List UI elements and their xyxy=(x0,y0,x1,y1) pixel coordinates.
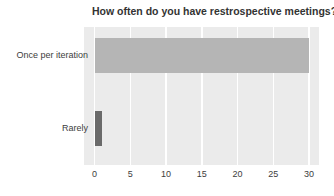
bar-once-per-iteration xyxy=(95,38,310,73)
x-axis-tick-label-15: 15 xyxy=(187,169,217,179)
x-axis-tick-label-0: 0 xyxy=(80,169,110,179)
bar-chart-figure: How often do you have restrospective mee… xyxy=(0,0,334,196)
y-axis-label-rarely: Rarely xyxy=(0,123,88,133)
plot-panel xyxy=(84,27,319,165)
bar-rarely xyxy=(95,111,102,146)
x-axis-tick-label-5: 5 xyxy=(115,169,145,179)
y-axis-label-once-per-iteration: Once per iteration xyxy=(0,50,88,60)
x-axis-tick-label-20: 20 xyxy=(223,169,253,179)
x-axis-tick-label-10: 10 xyxy=(151,169,181,179)
chart-title: How often do you have restrospective mee… xyxy=(92,5,334,17)
x-axis-tick-label-30: 30 xyxy=(294,169,324,179)
x-axis-tick-label-25: 25 xyxy=(258,169,288,179)
